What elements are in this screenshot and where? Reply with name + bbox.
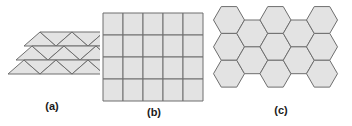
- square-tile: [103, 13, 123, 35]
- panel-caption-b: (b): [96, 106, 212, 118]
- panel-caption-a: (a): [4, 100, 100, 112]
- square-tile: [103, 35, 123, 57]
- square-tile: [163, 35, 183, 57]
- square-tile: [163, 79, 183, 101]
- triangular-tiling-graphic: [4, 26, 100, 96]
- square-tile: [123, 13, 143, 35]
- hexagonal-tiling-graphic: [210, 0, 352, 104]
- panel-square-tiling: (b): [96, 6, 212, 126]
- square-tile: [143, 13, 163, 35]
- square-tile: [183, 13, 203, 35]
- square-tile: [143, 57, 163, 79]
- square-tile: [163, 57, 183, 79]
- tilings-figure: (a) (b) (c): [0, 0, 352, 126]
- square-tile: [183, 35, 203, 57]
- panel-caption-c: (c): [210, 104, 352, 116]
- square-tile: [103, 57, 123, 79]
- square-tile: [103, 79, 123, 101]
- square-tile: [183, 79, 203, 101]
- square-tile: [143, 79, 163, 101]
- panel-triangular-tiling: (a): [4, 26, 100, 126]
- square-tile: [123, 57, 143, 79]
- square-tile: [143, 35, 163, 57]
- panel-hexagonal-tiling: (c): [210, 0, 352, 126]
- square-tile: [183, 57, 203, 79]
- square-tile: [123, 35, 143, 57]
- square-tile: [123, 79, 143, 101]
- square-tile: [163, 13, 183, 35]
- square-tiling-graphic: [96, 6, 212, 102]
